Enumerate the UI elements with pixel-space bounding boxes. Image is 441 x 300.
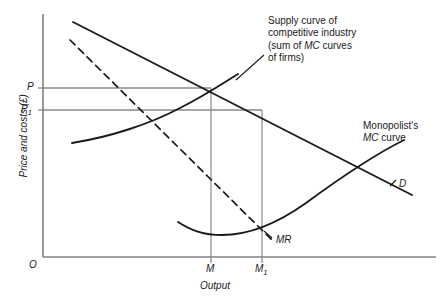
marginal-revenue-label: MR	[276, 234, 292, 246]
monopolist-annotation-line-2: MC curve	[363, 132, 418, 144]
supply-curve	[72, 74, 238, 143]
supply-annotation-line-3: (sum of MC curves	[268, 40, 356, 52]
supply-annotation-line-4: of firms)	[268, 52, 356, 64]
supply-annotation-line-1: Supply curve of	[268, 15, 356, 27]
economics-diagram	[0, 0, 441, 300]
supply-annotation-line-3-pre: (sum of	[268, 40, 304, 51]
x-tick-label-m1-subscript: 1	[263, 268, 267, 277]
supply-annotation-line-2: competitive industry	[268, 27, 356, 39]
supply-label-leader-line	[236, 55, 264, 80]
x-tick-label-m: M	[206, 263, 214, 275]
demand-curve-label: D	[399, 178, 406, 190]
x-tick-label-m1: M1	[255, 263, 268, 279]
monopolist-annotation-line-2-post: curve	[379, 132, 406, 143]
y-axis-title: Price and costs (£)	[18, 76, 30, 196]
demand-curve	[73, 22, 412, 195]
monopolist-annotation-mc-term: MC	[363, 132, 379, 143]
origin-label: O	[29, 259, 37, 271]
y-tick-label-p1: P1	[21, 103, 32, 119]
monopolist-annotation-line-1: Monopolist's	[363, 120, 418, 132]
supply-curve-annotation: Supply curve of competitive industry (su…	[268, 15, 356, 65]
monopolist-mc-curve	[178, 140, 404, 235]
supply-annotation-mc-term: MC	[304, 40, 320, 51]
marginal-revenue-curve	[70, 40, 272, 240]
x-axis-title: Output	[200, 280, 230, 292]
y-tick-label-p1-base: P	[21, 103, 28, 114]
monopolist-mc-annotation: Monopolist's MC curve	[363, 120, 418, 145]
y-tick-label-p1-subscript: 1	[28, 108, 32, 117]
y-tick-label-p: P	[27, 81, 34, 93]
figure-container: Price and costs (£) O P P1 M M1 Output S…	[0, 0, 441, 300]
supply-annotation-line-3-post: curves	[320, 40, 352, 51]
